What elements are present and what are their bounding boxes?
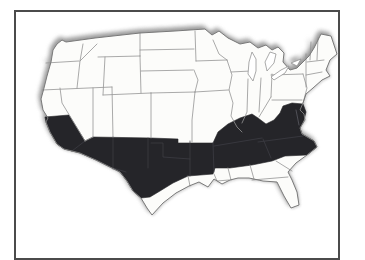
us-map-group bbox=[41, 29, 337, 215]
